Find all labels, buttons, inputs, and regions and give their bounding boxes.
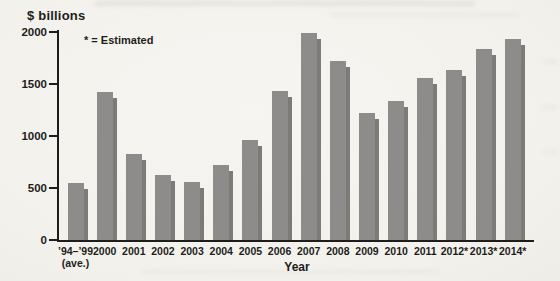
y-axis-tick-0 [49,239,58,241]
y-axis-tick-500 [49,187,58,189]
bar-2014 [505,39,521,240]
y-tick-label-0: 0 [13,233,47,247]
scanned-book-page: $ billions * = Estimated 200015001000500… [0,0,560,281]
bar-2013 [476,49,492,240]
bar-2004 [213,165,229,240]
bar-2008 [330,61,346,240]
y-tick-label-1500: 1500 [13,77,47,91]
bar-2010 [388,101,404,240]
bar-9499 [68,183,84,240]
bar-2007 [301,33,317,240]
x-axis-title: Year [266,260,328,274]
y-tick-label-500: 500 [13,181,47,195]
bar-2000 [97,92,113,240]
bar-2006 [272,91,288,240]
x-label-subtext: (ave.) [49,257,103,269]
estimated-note: * = Estimated [84,34,153,46]
y-axis-tick-2000 [49,31,58,33]
x-axis-line [57,240,534,242]
y-tick-label-2000: 2000 [13,25,47,39]
y-axis-tick-1500 [49,83,58,85]
x-label-text: 2014* [499,245,526,257]
x-label-2014: 2014* [486,245,540,257]
bar-2012 [446,70,462,240]
y-axis-tick-1000 [49,135,58,137]
bar-2002 [155,175,171,240]
bar-2011 [417,78,433,240]
bar-2009 [359,113,375,240]
y-axis-title: $ billions [27,8,85,23]
bar-chart-figure: $ billions * = Estimated 200015001000500… [0,0,560,281]
bar-2005 [242,140,258,240]
bar-2001 [126,154,142,240]
bar-2003 [184,182,200,240]
y-tick-label-1000: 1000 [13,129,47,143]
